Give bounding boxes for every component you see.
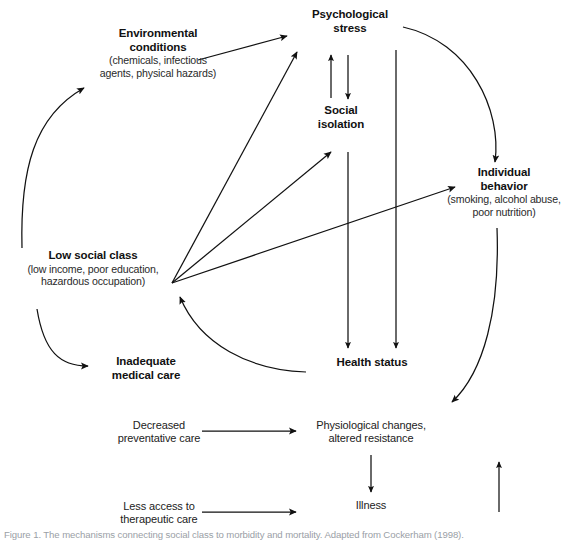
decreased-preventative-care-line1: Decreased [104,419,214,432]
node-environmental-conditions: Environmental conditions (chemicals, inf… [88,27,228,79]
low-social-class-sub2: hazardous occupation) [16,275,170,288]
individual-behavior-line2: behavior [438,180,570,194]
node-social-isolation: Social isolation [303,104,379,131]
social-isolation-line1: Social [303,104,379,118]
low-social-class-sub1: (low income, poor education, [16,263,170,276]
edge-low-social-class-to-inadequate-medical-care [37,309,88,366]
environmental-conditions-sub2: agents, physical hazards) [88,67,228,80]
node-physiological-changes: Physiological changes, altered resistanc… [300,419,442,445]
inadequate-medical-care-line2: medical care [94,369,198,383]
node-health-status: Health status [322,356,422,370]
psychological-stress-line2: stress [295,22,405,36]
health-status-line1: Health status [322,356,422,370]
physiological-changes-line2: altered resistance [300,432,442,445]
node-low-social-class: Low social class (low income, poor educa… [16,249,170,288]
figure-caption: Figure 1. The mechanisms connecting soci… [4,529,570,541]
environmental-conditions-sub1: (chemicals, infectious [88,54,228,67]
social-isolation-line2: isolation [303,118,379,132]
individual-behavior-sub2: poor nutrition) [438,206,570,219]
edge-health-status-to-low-social-class [180,297,306,372]
node-psychological-stress: Psychological stress [295,8,405,35]
inadequate-medical-care-line1: Inadequate [94,355,198,369]
illness-line1: Illness [340,499,402,512]
edge-low-social-class-to-social-isolation [172,152,331,283]
individual-behavior-line1: Individual [438,166,570,180]
decreased-preventative-care-line2: preventative care [104,432,214,445]
node-individual-behavior: Individual behavior (smoking, alcohol ab… [438,166,570,218]
less-access-therapeutic-care-line2: therapeutic care [104,513,214,526]
node-illness: Illness [340,499,402,512]
diagram-canvas: Psychological stress Environmental condi… [0,0,574,542]
node-inadequate-medical-care: Inadequate medical care [94,355,198,382]
physiological-changes-line1: Physiological changes, [300,419,442,432]
edge-low-social-class-to-psychological-stress [172,52,297,283]
low-social-class-line1: Low social class [16,249,170,263]
edge-low-social-class-to-individual-behavior [172,187,455,283]
node-less-access-therapeutic-care: Less access to therapeutic care [104,500,214,526]
edge-low-social-class-to-environmental-conditions [22,88,84,248]
edge-psychological-stress-to-individual-behavior [403,27,496,162]
edge-individual-behavior-to-physiological-changes [452,228,497,402]
individual-behavior-sub1: (smoking, alcohol abuse, [438,193,570,206]
environmental-conditions-line1: Environmental [88,27,228,41]
environmental-conditions-line2: conditions [88,41,228,55]
psychological-stress-line1: Psychological [295,8,405,22]
less-access-therapeutic-care-line1: Less access to [104,500,214,513]
node-decreased-preventative-care: Decreased preventative care [104,419,214,445]
